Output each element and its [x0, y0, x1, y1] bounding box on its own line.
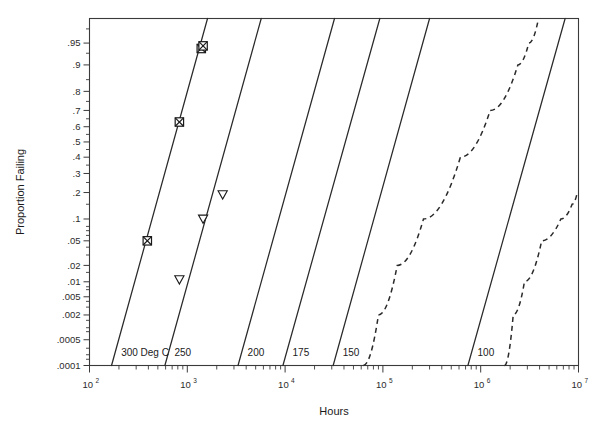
x-tick-label: 10 — [376, 379, 387, 390]
x-tick-exponent: 7 — [585, 377, 589, 384]
x-tick-label: 10 — [474, 379, 485, 390]
y-tick-label: .95 — [67, 37, 80, 48]
x-tick-label: 10 — [180, 379, 191, 390]
x-tick-exponent: 6 — [487, 377, 491, 384]
y-tick-label: .002 — [62, 309, 81, 320]
y-tick-label: .3 — [73, 168, 81, 179]
y-tick-label: .0005 — [57, 334, 81, 345]
y-tick-label: .05 — [67, 235, 80, 246]
probability-plot: .95.9.8.7.6.5.4.3.2.1.05.02.01.005.002.0… — [0, 0, 608, 433]
chart-canvas: .95.9.8.7.6.5.4.3.2.1.05.02.01.005.002.0… — [0, 0, 608, 433]
x-tick-exponent: 4 — [291, 377, 295, 384]
series-label-100: 100 — [478, 347, 495, 358]
data-marker-crossed-square — [143, 237, 151, 245]
y-tick-label: .005 — [62, 291, 81, 302]
series-label-300-deg-c: 300 Deg C — [121, 347, 169, 358]
chart-background — [0, 0, 608, 433]
x-tick-exponent: 5 — [389, 377, 393, 384]
x-axis-title: Hours — [319, 405, 349, 417]
x-tick-label: 10 — [278, 379, 289, 390]
y-tick-label: .02 — [67, 260, 80, 271]
y-tick-label: .4 — [73, 151, 81, 162]
x-tick-label: 10 — [572, 379, 583, 390]
data-marker-crossed-square — [199, 42, 207, 50]
x-tick-exponent: 2 — [96, 377, 100, 384]
y-tick-label: .5 — [73, 136, 81, 147]
y-axis-title: Proportion Failing — [14, 149, 26, 235]
y-tick-label: .01 — [67, 276, 80, 287]
y-tick-label: .9 — [73, 59, 81, 70]
y-tick-label: .7 — [73, 105, 81, 116]
y-tick-label: .0001 — [57, 360, 81, 371]
data-marker-crossed-square — [175, 118, 183, 126]
series-label-250: 250 — [174, 347, 191, 358]
x-tick-label: 10 — [83, 379, 94, 390]
y-tick-label: .1 — [73, 213, 81, 224]
series-label-200: 200 — [248, 347, 265, 358]
y-tick-label: .2 — [73, 187, 81, 198]
y-tick-label: .6 — [73, 121, 81, 132]
x-tick-exponent: 3 — [193, 377, 197, 384]
series-label-150: 150 — [343, 347, 360, 358]
series-label-175: 175 — [293, 347, 310, 358]
y-tick-label: .8 — [73, 86, 81, 97]
